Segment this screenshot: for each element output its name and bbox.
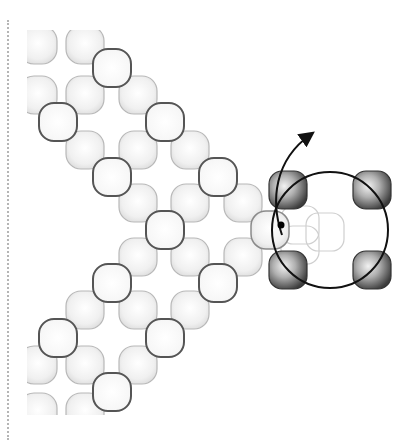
pivot-dot <box>278 222 285 229</box>
outlined-particle <box>199 264 237 302</box>
diagram-canvas <box>0 0 408 445</box>
outlined-particle <box>93 49 131 87</box>
outlined-particle <box>146 103 184 141</box>
light-particles <box>19 26 262 431</box>
rotor-assembly <box>269 135 391 289</box>
outlined-particle <box>93 264 131 302</box>
light-particle <box>19 393 57 431</box>
outlined-particle <box>146 319 184 357</box>
outlined-particle <box>93 373 131 411</box>
junction-particle <box>251 211 289 249</box>
outlined-particle <box>39 319 77 357</box>
outlined-particle <box>39 103 77 141</box>
outlined-particle <box>146 211 184 249</box>
ghost-particle <box>306 213 344 251</box>
light-particle <box>19 26 57 64</box>
outlined-particle <box>93 158 131 196</box>
junction-particle <box>251 211 289 249</box>
lattice-diagram <box>0 0 408 445</box>
outlined-particle <box>199 158 237 196</box>
